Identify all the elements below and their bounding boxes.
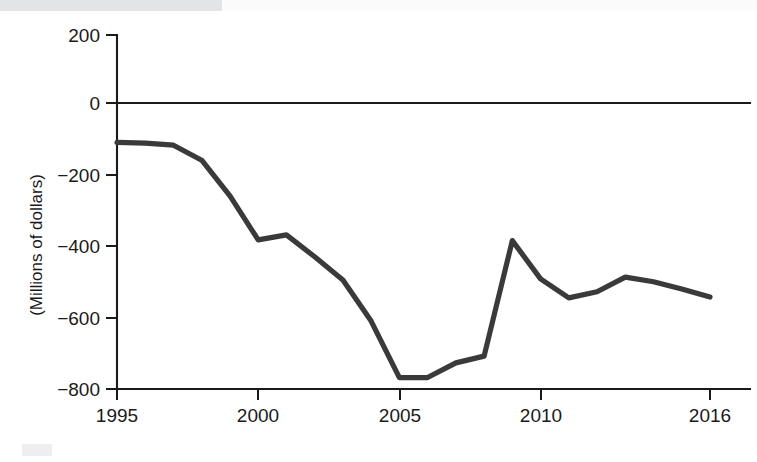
x-tick-label-2010: 2010 bbox=[520, 405, 562, 426]
line-chart: 200 0 −200 −400 −600 −800 1995 2000 2005… bbox=[0, 0, 757, 462]
y-tick-label-200: 200 bbox=[68, 25, 100, 46]
x-tick-label-1995: 1995 bbox=[96, 405, 138, 426]
chart-page: 200 0 −200 −400 −600 −800 1995 2000 2005… bbox=[0, 0, 757, 462]
x-tick-label-2000: 2000 bbox=[237, 405, 279, 426]
y-tick-label-minus-800: −800 bbox=[57, 379, 100, 400]
x-tick-label-2005: 2005 bbox=[379, 405, 421, 426]
data-series-line bbox=[117, 142, 710, 377]
y-tick-label-minus-400: −400 bbox=[57, 236, 100, 257]
chart-svg: 200 0 −200 −400 −600 −800 1995 2000 2005… bbox=[0, 0, 757, 462]
y-tick-label-0: 0 bbox=[89, 93, 100, 114]
y-tick-label-minus-200: −200 bbox=[57, 165, 100, 186]
y-axis-title: (Millions of dollars) bbox=[27, 174, 46, 316]
x-tick-label-2016: 2016 bbox=[689, 405, 731, 426]
y-tick-label-minus-600: −600 bbox=[57, 308, 100, 329]
